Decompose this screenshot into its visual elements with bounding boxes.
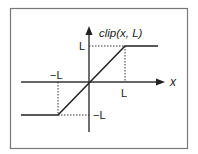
tick-label-x-negative: −L (50, 69, 63, 81)
tick-label-y-positive: L (79, 40, 85, 52)
y-axis-arrow-icon (86, 26, 93, 35)
tick-label-y-negative: −L (93, 109, 106, 121)
y-axis-label: clip(x, L) (99, 27, 143, 39)
clip-function-diagram: clip(x, L) x L L −L −L (0, 0, 198, 154)
tick-label-x-positive: L (121, 87, 127, 99)
x-axis-label: x (169, 75, 177, 89)
x-axis-arrow-icon (156, 79, 165, 86)
